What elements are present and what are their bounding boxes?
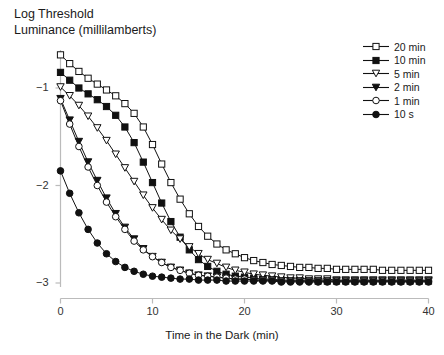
chart-figure: Log ThresholdLuminance (millilamberts) 2… (0, 0, 444, 355)
legend-label: 10 s (394, 108, 414, 120)
legend-item[interactable]: 10 s (362, 108, 442, 122)
y-tick-label: −2 (23, 179, 49, 191)
legend-item[interactable]: 20 min (362, 40, 442, 54)
x-tick-label: 30 (325, 305, 349, 317)
legend-item[interactable]: 2 min (362, 81, 442, 95)
legend-label: 2 min (394, 81, 420, 93)
legend-label: 5 min (394, 68, 420, 80)
x-tick-label: 20 (233, 305, 257, 317)
legend-item[interactable]: 10 min (362, 54, 442, 68)
legend-item[interactable]: 1 min (362, 94, 442, 108)
x-tick-label: 40 (417, 305, 441, 317)
legend-marker-open-square-icon (362, 40, 390, 53)
legend-marker-filled-circle-icon (362, 108, 390, 121)
legend-marker-open-triangle-down-icon (362, 67, 390, 80)
x-tick-label: 10 (141, 305, 165, 317)
x-axis-title: Time in the Dark (min) (0, 329, 444, 341)
legend-marker-filled-square-icon (362, 54, 390, 67)
legend-label: 20 min (394, 41, 426, 53)
x-tick-label: 0 (49, 305, 73, 317)
y-tick-label: −3 (23, 276, 49, 288)
legend-label: 1 min (394, 95, 420, 107)
legend-item[interactable]: 5 min (362, 67, 442, 81)
legend-label: 10 min (394, 54, 426, 66)
legend-marker-filled-triangle-down-icon (362, 81, 390, 94)
chart-legend: 20 min10 min5 min2 min1 min10 s (362, 40, 442, 121)
legend-marker-open-circle-icon (362, 94, 390, 107)
y-tick-label: −1 (23, 81, 49, 93)
